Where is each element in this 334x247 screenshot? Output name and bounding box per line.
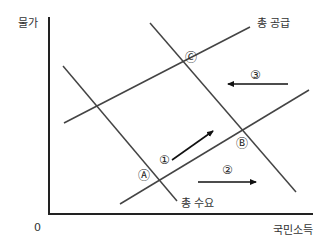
point-c-label: Ⓒ: [185, 52, 197, 64]
point-b-label: Ⓑ: [236, 138, 248, 150]
y-axis-label: 물가: [18, 18, 38, 29]
ad-as-diagram: 물가 국민소득 0 총 공급 총 수요 Ⓐ Ⓑ Ⓒ ① ② ③: [0, 0, 334, 247]
supply-curve-label: 총 공급: [257, 18, 291, 29]
arrow-3-label: ③: [250, 69, 261, 81]
x-axis-label: 국민소득: [273, 225, 313, 236]
diagram-canvas: [0, 0, 334, 247]
origin-label: 0: [34, 222, 41, 233]
supply-curve-upper: [64, 27, 250, 123]
arrow-2-label: ②: [222, 164, 233, 176]
demand-curve-label: 총 수요: [181, 198, 215, 209]
arrow-1-label: ①: [159, 154, 170, 166]
arrow-1: [172, 131, 213, 160]
demand-curve-left: [63, 66, 177, 201]
supply-curve-lower: [120, 90, 309, 204]
point-a-label: Ⓐ: [138, 170, 150, 182]
